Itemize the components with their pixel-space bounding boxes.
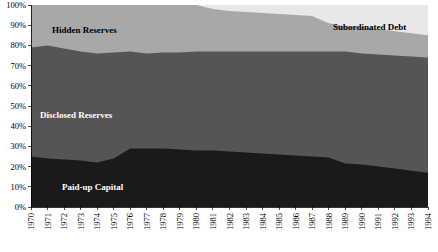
y-tick-label: 100%	[6, 0, 26, 10]
x-tick-label: 1977	[142, 213, 152, 230]
series-label-hidden-reserves: Hidden Reserves	[52, 25, 117, 35]
x-tick-label: 1974	[92, 212, 102, 230]
x-tick-label: 1971	[43, 213, 53, 230]
x-tick-label: 1985	[274, 213, 284, 230]
y-tick-label: 70%	[10, 61, 26, 71]
area-series-group	[31, 5, 428, 207]
x-tick-label: 1976	[125, 213, 135, 230]
x-tick-label: 1982	[225, 213, 235, 230]
x-tick-label: 1972	[59, 213, 69, 230]
x-tick-label: 1990	[357, 213, 367, 230]
y-axis-tick-labels: 0%10%20%30%40%50%60%70%80%90%100%	[6, 0, 31, 212]
series-label-subordinated-debt: Subordinated Debt	[333, 22, 406, 32]
series-label-paid-up-capital: Paid-up Capital	[62, 182, 124, 192]
x-tick-label: 1978	[158, 213, 168, 230]
x-tick-label: 1987	[307, 213, 317, 230]
stacked-area-chart: 0%10%20%30%40%50%60%70%80%90%100% 197019…	[0, 0, 438, 252]
x-tick-label: 1992	[390, 213, 400, 230]
x-tick-label: 1993	[406, 213, 416, 230]
y-tick-label: 30%	[10, 141, 26, 151]
x-tick-label: 1979	[175, 213, 185, 230]
series-label-disclosed-reserves: Disclosed Reserves	[40, 110, 113, 120]
x-tick-label: 1980	[191, 213, 201, 230]
x-tick-label: 1986	[291, 213, 301, 230]
y-tick-label: 20%	[10, 162, 26, 172]
x-tick-label: 1994	[423, 212, 433, 230]
x-tick-label: 1991	[373, 213, 383, 230]
x-axis-tick-labels: 1970197119721973197419751976197719781979…	[26, 207, 433, 230]
x-tick-label: 1975	[109, 213, 119, 230]
y-tick-label: 80%	[10, 40, 26, 50]
y-tick-label: 90%	[10, 20, 26, 30]
x-tick-label: 1981	[208, 213, 218, 230]
x-tick-label: 1970	[26, 213, 36, 230]
chart-canvas: 0%10%20%30%40%50%60%70%80%90%100% 197019…	[0, 0, 438, 252]
y-tick-label: 60%	[10, 81, 26, 91]
y-tick-label: 40%	[10, 121, 26, 131]
y-tick-label: 10%	[10, 182, 26, 192]
x-tick-label: 1973	[76, 213, 86, 230]
x-tick-label: 1983	[241, 213, 251, 230]
y-tick-label: 50%	[10, 101, 26, 111]
x-tick-label: 1989	[340, 213, 350, 230]
x-tick-label: 1984	[258, 212, 268, 230]
y-tick-label: 0%	[15, 202, 26, 212]
x-tick-label: 1988	[324, 213, 334, 230]
